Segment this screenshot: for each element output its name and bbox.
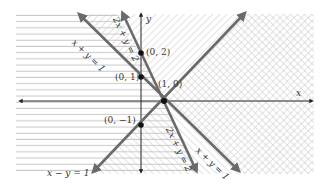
point-label-1-0: (1, 0) — [158, 80, 182, 89]
point-label-0-1: (0, 1) — [115, 73, 139, 82]
inequality-graph — [0, 0, 330, 188]
point-0-neg1 — [138, 122, 144, 128]
point-label-0-2: (0, 2) — [146, 48, 170, 57]
point-label-0-neg1: (0, −1) — [104, 116, 136, 125]
point-1-0 — [161, 98, 167, 104]
label-x-minus-y: x − y = 1 — [47, 169, 89, 178]
x-axis-label: x — [296, 89, 301, 98]
y-axis-label: y — [146, 15, 151, 24]
